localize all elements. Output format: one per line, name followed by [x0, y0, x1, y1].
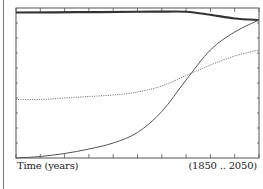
plot-frame — [16, 8, 259, 158]
x-axis-label: Time (years) — [17, 160, 78, 171]
series-solid-curve — [16, 20, 259, 158]
time-range-label: (1850 .. 2050) — [188, 160, 257, 171]
series-dotted-curve — [16, 50, 259, 100]
series-thick-line — [16, 11, 259, 20]
